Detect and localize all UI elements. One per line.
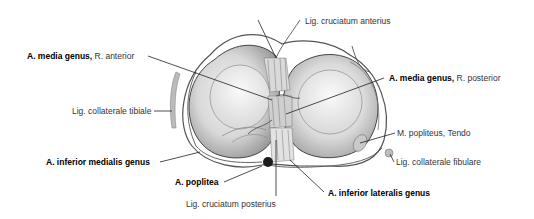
label-text: M. popliteus, Tendo bbox=[397, 128, 471, 138]
label-a-poplitea: A. poplitea bbox=[175, 177, 218, 187]
label-text: R. posterior bbox=[454, 73, 500, 83]
label-m-popliteus-tendo: M. popliteus, Tendo bbox=[397, 128, 471, 138]
label-a-media-genus-anterior: A. media genus, R. anterior bbox=[27, 51, 134, 61]
label-bold: A. inferior medialis genus bbox=[46, 157, 150, 167]
label-bold: A. media genus, bbox=[389, 73, 454, 83]
label-text: Lig. collaterale fibulare bbox=[396, 157, 481, 167]
label-text: Lig. collaterale tibiale bbox=[72, 106, 151, 116]
knee-diagram: Lig. cruciatum anterius A. media genus, … bbox=[0, 0, 534, 219]
a-poplitea-shape bbox=[263, 157, 273, 167]
label-bold: A. media genus, bbox=[27, 51, 92, 61]
label-a-inferior-lateralis-genus: A. inferior lateralis genus bbox=[328, 188, 430, 198]
label-lig-collaterale-tibiale: Lig. collaterale tibiale bbox=[72, 106, 151, 116]
lig-collaterale-fibulare-shape bbox=[385, 149, 393, 157]
label-lig-cruciatum-anterius: Lig. cruciatum anterius bbox=[305, 16, 391, 26]
lig-collaterale-tibiale-shape bbox=[170, 72, 180, 128]
label-text: R. anterior bbox=[92, 51, 134, 61]
label-a-media-genus-posterior: A. media genus, R. posterior bbox=[389, 73, 500, 83]
label-bold: A. poplitea bbox=[175, 177, 218, 187]
label-bold: A. inferior lateralis genus bbox=[328, 188, 430, 198]
label-a-inferior-medialis-genus: A. inferior medialis genus bbox=[46, 157, 150, 167]
label-text: Lig. cruciatum anterius bbox=[305, 16, 391, 26]
label-lig-cruciatum-posterius: Lig. cruciatum posterius bbox=[186, 199, 276, 209]
label-text: Lig. cruciatum posterius bbox=[186, 199, 276, 209]
label-lig-collaterale-fibulare: Lig. collaterale fibulare bbox=[396, 157, 481, 167]
